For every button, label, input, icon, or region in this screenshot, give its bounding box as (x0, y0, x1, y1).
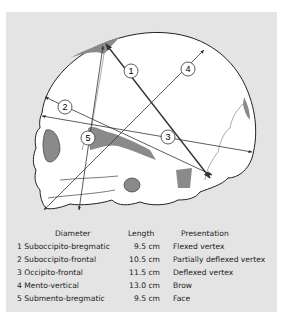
header-diameter: Diameter (55, 228, 90, 240)
header-presentation: Presentation (181, 228, 229, 240)
svg-text:1: 1 (128, 66, 133, 76)
svg-text:2: 2 (62, 102, 67, 112)
svg-text:3: 3 (165, 132, 170, 142)
svg-text:4: 4 (185, 64, 190, 74)
marker-2: 2 (58, 100, 72, 114)
svg-text:5: 5 (85, 133, 90, 143)
marker-3: 3 (161, 130, 175, 144)
marker-5: 5 (81, 131, 95, 145)
marker-4: 4 (181, 62, 195, 76)
marker-1: 1 (124, 64, 138, 78)
header-length: Length (128, 228, 160, 240)
